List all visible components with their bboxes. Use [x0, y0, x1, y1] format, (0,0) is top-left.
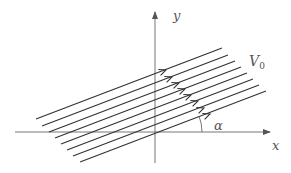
- streamline: [36, 48, 222, 119]
- y-axis-label: y: [172, 8, 181, 23]
- streamlines: [36, 48, 266, 162]
- velocity-label: V0: [249, 53, 265, 71]
- angle-label: α: [214, 118, 223, 133]
- flow-diagram: y x α V0: [0, 0, 291, 173]
- x-axis-label: x: [272, 138, 280, 153]
- velocity-subscript: 0: [259, 61, 265, 71]
- angle-arc: [199, 116, 202, 132]
